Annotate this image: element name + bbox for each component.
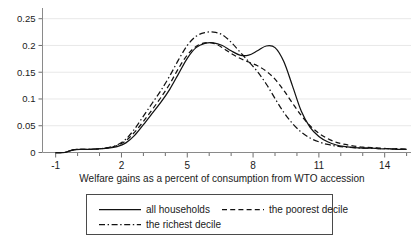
y-tick-label: 0.1 (22, 93, 35, 104)
chart-canvas: 00.050.10.150.20.25 -12581114 Welfare ga… (0, 0, 419, 239)
x-tick-label: 2 (119, 160, 125, 171)
legend-label: the poorest decile (269, 204, 348, 215)
y-tick-label: 0.2 (22, 40, 35, 51)
series-line-solid (56, 43, 407, 153)
x-tick-label: 8 (250, 160, 256, 171)
legend-entries: all householdsthe poorest decilethe rich… (99, 204, 348, 230)
x-tick-label: 14 (379, 160, 391, 171)
x-axis-title: Welfare gains as a percent of consumptio… (79, 173, 364, 184)
legend-label: all households (146, 204, 210, 215)
x-tick-label: -1 (51, 160, 60, 171)
y-tick-label: 0.05 (17, 120, 36, 131)
density-chart-figure: 00.050.10.150.20.25 -12581114 Welfare ga… (0, 0, 419, 239)
y-axis-ticks: 00.050.10.150.20.25 (17, 13, 43, 158)
series-line-dashdot (56, 32, 407, 153)
x-tick-label: 11 (314, 160, 325, 171)
x-axis-ticks: -12581114 (51, 153, 406, 171)
y-tick-label: 0.25 (17, 13, 36, 24)
series-curves (56, 32, 407, 153)
y-tick-label: 0.15 (17, 67, 36, 78)
x-tick-label: 5 (184, 160, 190, 171)
legend-label: the richest decile (146, 219, 221, 230)
y-tick-label: 0 (30, 147, 35, 158)
series-line-dashed (56, 43, 407, 153)
